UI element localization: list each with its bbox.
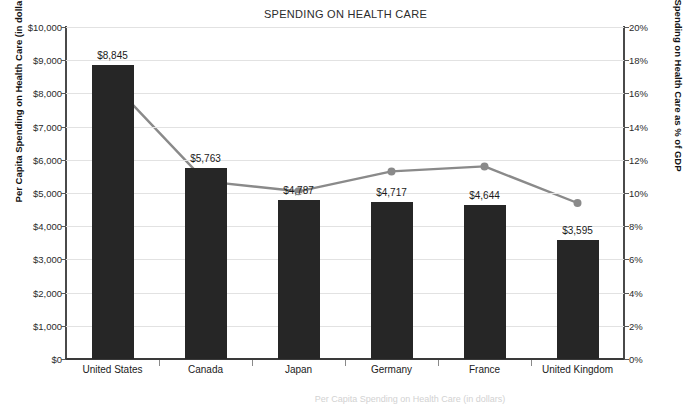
right-axis-tick-mark — [624, 160, 629, 161]
gridline — [66, 326, 624, 327]
gridline — [66, 293, 624, 294]
right-axis-tick-mark — [624, 193, 629, 194]
bar[interactable] — [371, 202, 413, 359]
line-data-point[interactable] — [481, 162, 489, 170]
gridline — [66, 27, 624, 28]
gridline — [66, 226, 624, 227]
bottom-caption: Per Capita Spending on Health Care (in d… — [150, 394, 670, 405]
right-axis-tick-mark — [624, 93, 629, 94]
bar-value-label: $4,717 — [376, 187, 407, 198]
gridline — [66, 60, 624, 61]
left-axis-tick-label: $4,000 — [33, 221, 62, 232]
chart-container: SPENDING ON HEALTH CARE Per Capita Spend… — [0, 0, 691, 405]
right-axis-tick-mark — [624, 359, 629, 360]
right-axis-tick-mark — [624, 326, 629, 327]
x-axis-tick-mark — [438, 360, 439, 366]
left-axis-tick-mark — [61, 326, 66, 327]
right-axis-tick-label: 12% — [629, 154, 648, 165]
bar[interactable] — [557, 240, 599, 359]
right-axis-tick-label: 16% — [629, 88, 648, 99]
bar[interactable] — [278, 200, 320, 359]
left-axis-tick-label: $3,000 — [33, 254, 62, 265]
left-axis-tick-mark — [61, 293, 66, 294]
right-axis-tick-mark — [624, 293, 629, 294]
left-axis-tick-label: $2,000 — [33, 287, 62, 298]
gridline — [66, 193, 624, 194]
bar-value-label: $4,644 — [469, 190, 500, 201]
bar-value-label: $8,845 — [97, 50, 128, 61]
left-axis-tick-label: $6,000 — [33, 154, 62, 165]
right-axis-title: Spending on Health Care as % of GDP — [673, 0, 684, 236]
x-axis-tick-mark — [345, 360, 346, 366]
gdp-percent-line — [113, 83, 578, 203]
plot-area — [66, 27, 624, 359]
left-axis-tick-label: $5,000 — [33, 188, 62, 199]
gridline — [66, 93, 624, 94]
left-axis-tick-label: $10,000 — [28, 22, 62, 33]
right-axis-tick-mark — [624, 259, 629, 260]
left-axis-tick-mark — [61, 60, 66, 61]
left-axis-tick-mark — [61, 193, 66, 194]
x-axis-tick-mark — [252, 360, 253, 366]
line-data-point[interactable] — [388, 167, 396, 175]
right-axis-tick-label: 8% — [629, 221, 643, 232]
x-axis-category-label: Japan — [254, 364, 344, 377]
left-axis-tick-label: $1,000 — [33, 320, 62, 331]
x-axis-category-label: France — [440, 364, 530, 377]
bar[interactable] — [92, 65, 134, 359]
right-axis-tick-label: 14% — [629, 121, 648, 132]
left-axis-tick-mark — [61, 27, 66, 28]
x-axis-category-label: Canada — [161, 364, 251, 377]
gridline — [66, 127, 624, 128]
x-axis-category-label: United Kingdom — [533, 364, 623, 377]
gridline — [66, 160, 624, 161]
bar-value-label: $3,595 — [562, 225, 593, 236]
right-axis-tick-label: 20% — [629, 22, 648, 33]
right-axis-tick-mark — [624, 60, 629, 61]
left-axis-title: Per Capita Spending on Health Care (in d… — [13, 0, 24, 246]
left-axis-tick-label: $8,000 — [33, 88, 62, 99]
x-axis-category-label: Germany — [347, 364, 437, 377]
x-axis-tick-mark — [531, 360, 532, 366]
left-axis-tick-label: $7,000 — [33, 121, 62, 132]
bar[interactable] — [185, 168, 227, 359]
left-axis-tick-label: $9,000 — [33, 55, 62, 66]
left-axis-tick-mark — [61, 160, 66, 161]
right-axis-tick-label: 10% — [629, 188, 648, 199]
right-axis-tick-mark — [624, 127, 629, 128]
left-axis-tick-mark — [61, 93, 66, 94]
gridline — [66, 259, 624, 260]
right-axis-tick-label: 4% — [629, 287, 643, 298]
bar-value-label: $5,763 — [190, 153, 221, 164]
left-axis-tick-mark — [61, 359, 66, 360]
bar[interactable] — [464, 205, 506, 359]
left-axis-tick-mark — [61, 226, 66, 227]
right-axis-tick-label: 6% — [629, 254, 643, 265]
x-axis-category-label: United States — [68, 364, 158, 377]
right-axis-tick-label: 18% — [629, 55, 648, 66]
right-axis-tick-label: 2% — [629, 320, 643, 331]
x-axis-tick-mark — [159, 360, 160, 366]
right-axis-tick-label: 0% — [629, 354, 643, 365]
left-axis-tick-mark — [61, 127, 66, 128]
bar-value-label: $4,787 — [283, 185, 314, 196]
right-axis-tick-mark — [624, 226, 629, 227]
chart-title: SPENDING ON HEALTH CARE — [0, 8, 691, 20]
left-axis-tick-mark — [61, 259, 66, 260]
right-axis-tick-mark — [624, 27, 629, 28]
line-data-point[interactable] — [574, 199, 582, 207]
